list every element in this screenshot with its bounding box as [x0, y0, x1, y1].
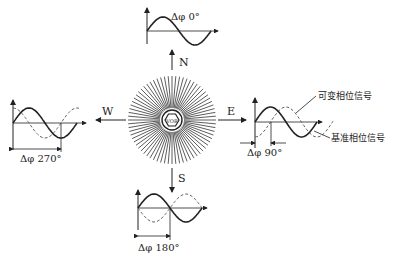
label-north: N [179, 56, 189, 69]
arrow-west: W [96, 105, 126, 120]
vor-diagram: VOR N E S W Δφ 0° Δφ 90° 可变相位信号 基准相位信号 [0, 0, 397, 259]
phase-label-west: Δφ 270° [20, 153, 62, 164]
label-east: E [227, 105, 235, 118]
center-label: VOR [165, 118, 178, 124]
plot-south: Δφ 180° [138, 190, 207, 253]
arrow-north: N [172, 50, 189, 70]
vor-station-icon: VOR [162, 110, 182, 130]
phase-label-east: Δφ 90° [247, 147, 282, 158]
legend-reference-phase: 基准相位信号 [331, 132, 385, 143]
legend-variable-phase: 可变相位信号 [318, 90, 372, 101]
label-west: W [102, 105, 114, 118]
plot-east: Δφ 90° 可变相位信号 基准相位信号 [240, 90, 385, 158]
plot-west: Δφ 270° [13, 100, 86, 164]
arrow-east: E [218, 105, 246, 120]
plot-north: Δφ 0° [147, 8, 218, 45]
phase-label-north: Δφ 0° [171, 11, 200, 22]
arrow-south: S [172, 168, 186, 192]
phase-label-south: Δφ 180° [138, 242, 180, 253]
label-south: S [178, 172, 186, 185]
